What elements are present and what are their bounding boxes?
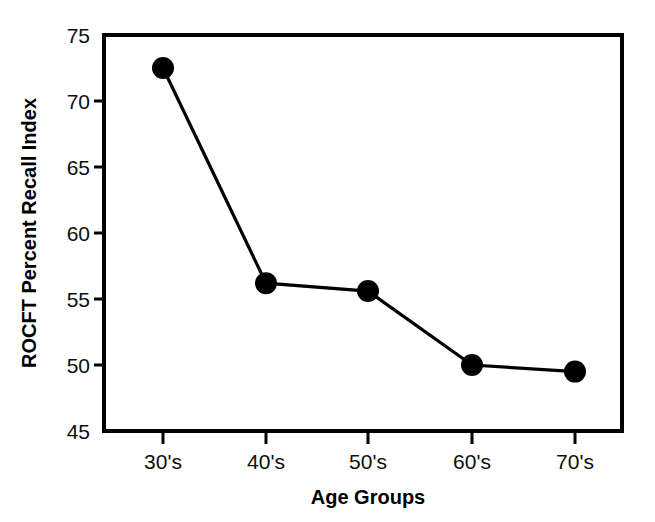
x-tick-label-70s: 70's: [556, 450, 594, 473]
x-tick-label-60s: 60's: [453, 450, 491, 473]
y-tick-label-50: 50: [67, 354, 90, 377]
y-tick-label-55: 55: [67, 288, 90, 311]
x-tick-label-40s: 40's: [247, 450, 285, 473]
data-point-70s: [564, 361, 586, 383]
x-axis-title: Age Groups: [311, 486, 425, 508]
line-chart: 75 70 65 60 55 50 45 30's 40's 50's 60's…: [0, 0, 655, 522]
y-tick-label-70: 70: [67, 90, 90, 113]
chart-figure: 75 70 65 60 55 50 45 30's 40's 50's 60's…: [0, 0, 655, 522]
y-tick-label-65: 65: [67, 156, 90, 179]
y-tick-label-60: 60: [67, 222, 90, 245]
data-point-30s: [152, 57, 174, 79]
x-tick-label-30s: 30's: [144, 450, 182, 473]
plot-frame: [104, 35, 622, 431]
x-tick-label-50s: 50's: [349, 450, 387, 473]
data-point-60s: [461, 354, 483, 376]
y-tick-label-45: 45: [67, 420, 90, 443]
data-point-40s: [255, 272, 277, 294]
data-point-50s: [357, 280, 379, 302]
y-tick-label-75: 75: [67, 24, 90, 47]
y-axis-title: ROCFT Percent Recall Index: [18, 98, 40, 368]
